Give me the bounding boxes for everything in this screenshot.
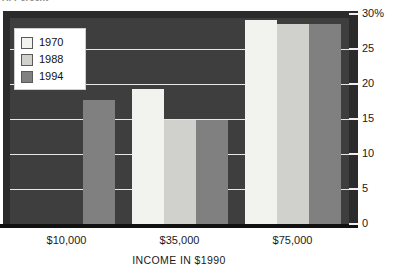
bar-1994-75000	[309, 24, 341, 224]
bar-1970-75000	[245, 20, 277, 224]
legend-label-1994: 1994	[39, 71, 63, 82]
y-tick-label-10: 10	[362, 148, 374, 159]
legend-label-1988: 1988	[39, 54, 63, 65]
bar-1994-35000	[196, 120, 228, 224]
y-tick-15	[349, 118, 358, 120]
bar-chart-figure: A. Percent 051015202530% 1970 1988 1994 …	[0, 0, 402, 271]
x-axis-label-0: $10,000	[10, 234, 123, 246]
y-tick-5	[349, 188, 358, 190]
plot-border-top	[3, 11, 358, 18]
legend-swatch-1970	[21, 37, 33, 49]
y-tick-label-20: 20	[362, 78, 374, 89]
legend-item-1994: 1994	[21, 68, 79, 85]
y-tick-label-0: 0	[362, 218, 368, 229]
legend-swatch-1988	[21, 54, 33, 66]
x-axis-baseline	[0, 224, 358, 228]
y-tick-label-25: 25	[362, 43, 374, 54]
y-tick-label-15: 15	[362, 113, 374, 124]
cropped-caption-text: A. Percent	[2, 0, 252, 2]
y-tick-30	[349, 13, 358, 15]
legend-swatch-1994	[21, 71, 33, 83]
y-tick-20	[349, 83, 358, 85]
legend-item-1970: 1970	[21, 34, 79, 51]
y-tick-25	[349, 48, 358, 50]
x-axis-label-2: $75,000	[236, 234, 349, 246]
bar-1988-75000	[277, 24, 309, 224]
plot-border-left	[3, 11, 10, 227]
bar-1994-10000	[83, 100, 115, 224]
legend-item-1988: 1988	[21, 51, 79, 68]
y-tick-0	[349, 223, 358, 225]
y-tick-label-5: 5	[362, 183, 368, 194]
bar-1988-35000	[164, 120, 196, 224]
y-tick-label-30: 30%	[362, 8, 384, 19]
x-axis-title: INCOME IN $1990	[0, 254, 358, 266]
x-axis-label-1: $35,000	[123, 234, 236, 246]
legend-label-1970: 1970	[39, 37, 63, 48]
y-tick-10	[349, 153, 358, 155]
bar-1970-35000	[132, 89, 164, 224]
chart-legend: 1970 1988 1994	[14, 28, 86, 90]
